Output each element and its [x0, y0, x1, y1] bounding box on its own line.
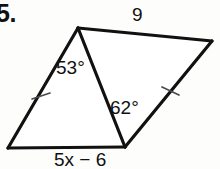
problem-number: 5.	[0, 1, 16, 26]
bottom-side-expression-label: 5x − 6	[54, 150, 106, 169]
lower-angle-measure-label: 62°	[110, 98, 139, 117]
edge-bottom-side	[8, 147, 125, 148]
upper-angle-measure-label: 53°	[56, 58, 85, 77]
geometry-figure: 5. 9 53° 62° 5x − 6	[0, 0, 220, 169]
figure-drawing	[0, 0, 220, 169]
top-side-length-label: 9	[132, 5, 143, 24]
